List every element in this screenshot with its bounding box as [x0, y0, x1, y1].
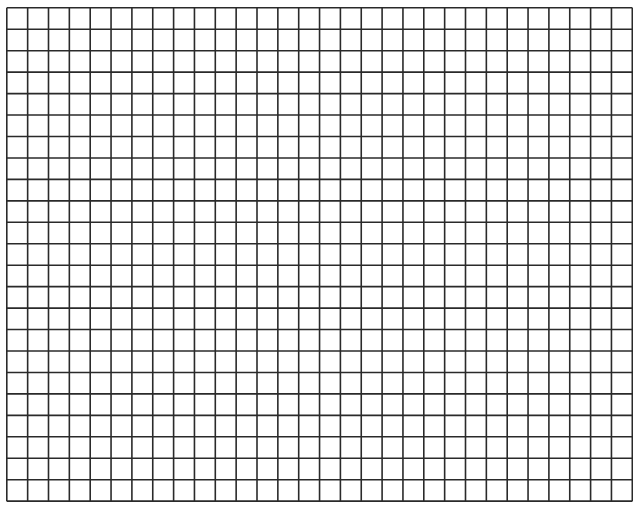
blank-grid [6, 7, 633, 504]
grid-lines [6, 7, 633, 504]
